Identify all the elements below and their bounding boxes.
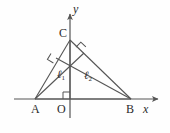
geometry-figure: C A O B y x ℓ1 ℓ2 (0, 0, 170, 133)
line-label-l1-glyph: ℓ (57, 68, 62, 80)
line-label-l1: ℓ1 (57, 69, 65, 80)
x-axis-label: x (143, 103, 148, 115)
y-axis-label: y (73, 3, 78, 15)
line-label-l1-subscript: 1 (62, 74, 66, 82)
point-label-O: O (57, 103, 66, 115)
right-angle-at-origin (63, 92, 70, 99)
line-label-l2-glyph: ℓ (84, 69, 89, 81)
side-CB (70, 40, 131, 99)
point-label-A: A (31, 103, 40, 115)
segments-group (35, 40, 131, 99)
line-label-l2: ℓ2 (84, 70, 92, 81)
point-label-C: C (59, 27, 67, 39)
line-label-l2-subscript: 2 (89, 75, 93, 83)
altitude-from-B (56, 58, 131, 99)
point-label-B: B (126, 103, 134, 115)
right-angle-on-AC (47, 53, 57, 63)
